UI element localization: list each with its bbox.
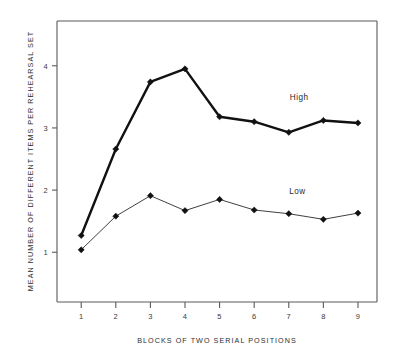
x-tick-label: 7	[287, 312, 291, 321]
x-tick-label: 4	[183, 312, 187, 321]
chart-background	[0, 0, 404, 360]
y-tick-label: 1	[44, 248, 48, 257]
y-tick-label: 4	[44, 62, 48, 71]
x-tick-label: 5	[217, 312, 221, 321]
series-label-high: High	[290, 93, 309, 102]
x-tick-label: 1	[79, 312, 83, 321]
series-label-low: Low	[289, 187, 305, 196]
line-chart: 1234 123456789 HighLow BLOCKS OF TWO SER…	[0, 0, 404, 360]
x-axis-title: BLOCKS OF TWO SERIAL POSITIONS	[137, 336, 297, 345]
x-tick-label: 8	[321, 312, 325, 321]
y-tick-label: 2	[44, 186, 48, 195]
chart-container: 1234 123456789 HighLow BLOCKS OF TWO SER…	[0, 0, 404, 360]
x-tick-label: 9	[356, 312, 360, 321]
x-tick-label: 6	[252, 312, 256, 321]
x-tick-label: 3	[148, 312, 152, 321]
y-tick-label: 3	[44, 124, 48, 133]
y-axis-title: MEAN NUMBER OF DIFFERENT ITEMS PER REHEA…	[26, 31, 35, 291]
x-tick-label: 2	[114, 312, 118, 321]
